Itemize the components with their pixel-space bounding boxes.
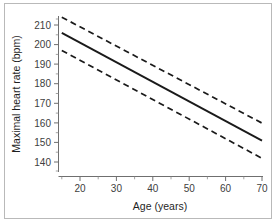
y-axis-tick-labels: 210 200 190 180 170 160 150 140 [34, 20, 51, 168]
y-tick-label: 150 [34, 137, 51, 148]
x-tick-label: 60 [220, 183, 232, 194]
y-tick-label: 210 [34, 20, 51, 31]
x-tick-label: 30 [111, 183, 123, 194]
y-tick-label: 140 [34, 157, 51, 168]
series-lower-limit-line [62, 51, 262, 159]
x-tick-label: 50 [184, 183, 196, 194]
y-tick-label: 170 [34, 98, 51, 109]
x-axis-title: Age (years) [133, 200, 187, 212]
x-axis-tick-labels: 20 30 40 50 60 70 [74, 183, 268, 194]
maximal-heart-rate-line-chart: 210 200 190 180 170 160 150 140 Maximal … [0, 0, 277, 224]
series-upper-limit-line [62, 17, 262, 123]
chart-figure: 210 200 190 180 170 160 150 140 Maximal … [0, 0, 277, 224]
x-tick-label: 20 [74, 183, 86, 194]
y-axis-title: Maximal heart rate (bpm) [10, 35, 22, 152]
y-tick-label: 160 [34, 118, 51, 129]
y-tick-label: 190 [34, 59, 51, 70]
y-tick-label: 200 [34, 39, 51, 50]
series-predicted-line [62, 33, 262, 141]
y-tick-label: 180 [34, 78, 51, 89]
x-tick-label: 70 [256, 183, 268, 194]
x-tick-label: 40 [147, 183, 159, 194]
